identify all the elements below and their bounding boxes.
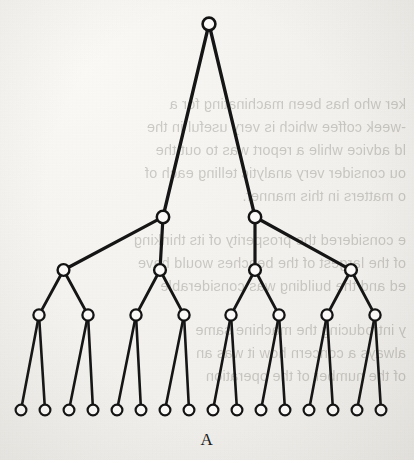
tree-node (249, 211, 261, 223)
tree-edge (163, 275, 182, 310)
tree-node (136, 405, 147, 416)
tree-edge (260, 220, 345, 267)
tree-edges (22, 30, 381, 404)
tree-node (304, 405, 315, 416)
tree-node (112, 405, 123, 416)
tree-node (82, 309, 93, 320)
tree-node (40, 405, 51, 416)
tree-edge (258, 275, 277, 310)
tree-edge (375, 321, 380, 405)
tree-edge (160, 223, 162, 264)
tree-node (157, 211, 169, 223)
tree-edge (231, 321, 236, 405)
tree-edge (354, 275, 373, 310)
tree-node (225, 309, 236, 320)
tree-node (203, 18, 216, 31)
tree-node (280, 405, 291, 416)
tree-node (130, 309, 141, 320)
tree-edge (234, 275, 253, 310)
tree-edge (214, 321, 230, 405)
tree-edge (310, 321, 326, 405)
tree-node (58, 264, 70, 276)
tree-node (328, 405, 339, 416)
tree-node (64, 405, 75, 416)
tree-node (208, 405, 219, 416)
tree-edge (327, 321, 332, 405)
tree-edge (279, 321, 284, 405)
tree-edge (358, 321, 374, 405)
tree-node (345, 264, 357, 276)
tree-node (16, 405, 27, 416)
tree-edge (88, 321, 92, 405)
tree-node (184, 405, 195, 416)
tree-node (369, 309, 380, 320)
binary-tree-figure (0, 0, 414, 460)
tree-node (160, 405, 171, 416)
tree-node (376, 405, 387, 416)
tree-edge (42, 275, 61, 310)
tree-edge (70, 320, 87, 404)
tree-node (88, 405, 99, 416)
tree-node (178, 309, 189, 320)
tree-edge (66, 275, 85, 310)
tree-node (273, 309, 284, 320)
tree-node (352, 405, 363, 416)
tree-edge (184, 321, 188, 405)
tree-edge (139, 275, 158, 310)
tree-edge (166, 320, 183, 404)
figure-caption: A (0, 430, 414, 450)
tree-node (321, 309, 332, 320)
tree-edge (210, 30, 253, 211)
tree-edge (22, 321, 38, 405)
tree-edge (136, 321, 140, 405)
tree-edge (330, 275, 349, 310)
tree-node (154, 264, 166, 276)
tree-node (249, 264, 261, 276)
tree-edge (164, 30, 207, 211)
tree-node (232, 405, 243, 416)
tree-edge (262, 321, 278, 405)
tree-node (33, 309, 44, 320)
tree-edge (39, 321, 44, 405)
tree-node (256, 405, 267, 416)
scanned-page: ker who has been machinating for a-week … (0, 0, 414, 460)
tree-edge (118, 320, 135, 404)
tree-edge (69, 220, 158, 267)
